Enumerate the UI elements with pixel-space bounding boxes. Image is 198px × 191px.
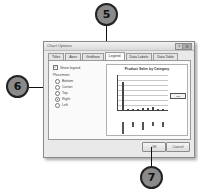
preview-bar (132, 109, 134, 110)
cancel-button[interactable]: Cancel (166, 142, 190, 152)
x-axis-label-mark (152, 122, 154, 126)
tab-axes[interactable]: Axes (65, 53, 81, 60)
chart-options-dialog: Chart Options ? X Titles Axes Gridlines … (43, 41, 195, 158)
placement-radio-group: Bottom Corner Top Right Left (55, 78, 73, 108)
radio-left-label: Left (62, 103, 68, 107)
dialog-title: Chart Options (47, 43, 72, 48)
tab-data-table[interactable]: Data Table (153, 53, 178, 60)
radio-right-label: Right (62, 97, 70, 101)
x-axis-label-mark (122, 122, 124, 134)
show-legend-label: Show legend (60, 66, 80, 70)
preview-bar (152, 107, 154, 110)
dialog-titlebar[interactable]: Chart Options ? X (44, 42, 194, 51)
legend-tab-panel: ✓ Show legend Placement Bottom Corner To… (48, 60, 191, 140)
radio-left[interactable]: Left (55, 102, 73, 108)
callout-5: 5 (95, 3, 118, 26)
gridline (118, 95, 168, 96)
tab-gridlines[interactable]: Gridlines (82, 53, 104, 60)
placement-label: Placement (53, 73, 70, 77)
checkmark-icon: ✓ (53, 65, 58, 70)
tab-titles[interactable]: Titles (48, 53, 64, 60)
preview-bar (147, 108, 149, 110)
gridline (118, 100, 168, 101)
tab-data-labels[interactable]: Data Labels (126, 53, 153, 60)
x-axis-label-mark (132, 122, 134, 127)
gridline (118, 85, 168, 86)
preview-bar (157, 109, 159, 110)
ok-button[interactable]: OK (142, 142, 166, 152)
gridline (118, 80, 168, 81)
preview-bar (162, 109, 164, 110)
callout-7-leader (151, 147, 152, 167)
preview-chart-title: Product Sales by Category (107, 67, 187, 71)
radio-circle-icon (55, 103, 60, 108)
preview-bar (137, 109, 139, 110)
radio-bottom-label: Bottom (62, 79, 73, 83)
x-axis-label-mark (142, 122, 144, 130)
callout-6: 6 (6, 75, 29, 98)
chart-preview: Product Sales by Category (106, 64, 188, 136)
radio-top-label: Top (62, 91, 68, 95)
callout-7: 7 (140, 166, 163, 189)
gridline (118, 75, 168, 76)
tab-legend[interactable]: Legend (105, 52, 125, 60)
preview-legend: Total (170, 93, 186, 99)
preview-bar (122, 82, 124, 110)
gridline (118, 90, 168, 91)
radio-circle-icon (55, 85, 60, 90)
show-legend-checkbox[interactable]: ✓ Show legend (53, 65, 80, 70)
x-axis-label-mark (162, 122, 164, 127)
radio-selected-icon (55, 97, 60, 102)
radio-circle-icon (55, 91, 60, 96)
tab-bar: Titles Axes Gridlines Legend Data Labels… (48, 53, 179, 60)
radio-corner-label: Corner (62, 85, 73, 89)
preview-plot-area (117, 75, 168, 111)
gridline (118, 105, 168, 106)
radio-circle-icon (55, 79, 60, 84)
close-button[interactable]: X (182, 43, 192, 50)
preview-bar (142, 108, 144, 110)
preview-bar (127, 109, 129, 110)
